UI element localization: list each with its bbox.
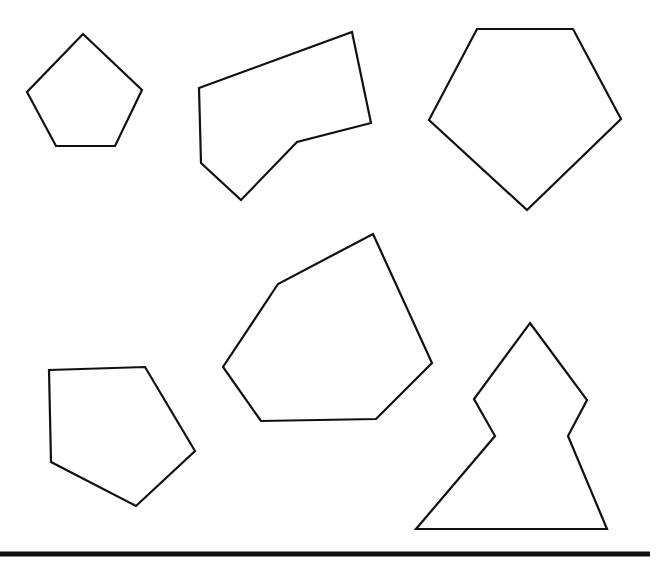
shape-tree-shaped-heptagon xyxy=(416,323,607,529)
polygon-figure xyxy=(0,0,665,576)
shape-irregular-pentagon xyxy=(49,367,195,506)
shape-irregular-hexagon xyxy=(223,234,432,421)
shape-small-regular-pentagon xyxy=(27,34,142,146)
shape-concave-hexagon xyxy=(199,32,371,200)
shape-large-regular-pentagon xyxy=(429,29,621,210)
